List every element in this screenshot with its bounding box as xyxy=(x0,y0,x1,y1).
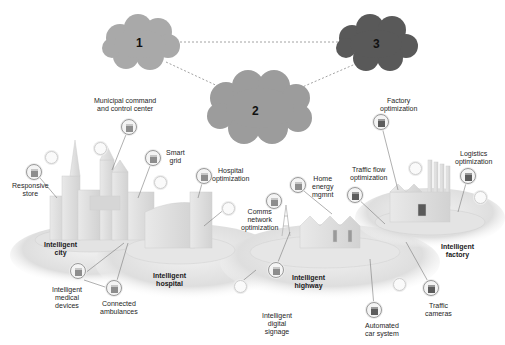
cloud-1-label: 1 xyxy=(136,36,143,50)
label-home-energy: Home energy mgmnt xyxy=(312,175,333,199)
cloud-3-label: 3 xyxy=(373,37,380,51)
home-energy-cube-icon xyxy=(290,177,306,193)
label-responsive-store: Responsive store xyxy=(12,182,49,198)
sensor-circle-icon xyxy=(222,202,235,215)
label-medical-devices: Intelligent medical devices xyxy=(52,286,82,310)
label-factory-optimization: Factory optimization xyxy=(380,97,417,113)
traffic-flow-cube-icon xyxy=(347,187,363,203)
sensor-circle-icon xyxy=(393,278,406,291)
automated-car-cube-icon xyxy=(366,302,382,318)
label-traffic-cameras: Traffic cameras xyxy=(425,302,452,318)
traffic-camera-cube-icon xyxy=(423,280,439,296)
ambulance-cube-icon xyxy=(106,280,122,296)
comms-cube-icon xyxy=(266,193,282,209)
label-municipal-command: Municipal command and control center xyxy=(94,97,156,113)
label-digital-signage: Intelligent digital signage xyxy=(262,312,292,336)
medical-devices-cube-icon xyxy=(70,263,86,279)
zone-intelligent-highway: Intelligent highway xyxy=(292,274,325,290)
logistics-cube-icon xyxy=(460,168,476,184)
smart-grid-cube-icon xyxy=(145,150,161,166)
zone-intelligent-city: Intelligent city xyxy=(44,241,77,257)
label-comms-network: Comms network optimization xyxy=(241,208,278,232)
city-buildings xyxy=(50,140,154,240)
sensor-circle-icon xyxy=(409,162,422,175)
zone-intelligent-factory: Intelligent factory xyxy=(441,243,474,259)
hospital-cube-icon xyxy=(196,168,212,184)
label-hospital-optimization: Hospital optimization xyxy=(212,167,249,183)
digital-signage-cube-icon xyxy=(268,262,284,278)
homes xyxy=(300,216,360,248)
sensor-circle-icon xyxy=(474,191,487,204)
sensor-circle-icon xyxy=(234,280,247,293)
zone-intelligent-hospital: Intelligent hospital xyxy=(153,272,186,288)
label-connected-ambulances: Connected ambulances xyxy=(100,300,138,316)
cloud-2-label: 2 xyxy=(252,104,259,118)
label-traffic-flow: Traffic flow optimization xyxy=(350,166,387,182)
label-automated-car: Automated car system xyxy=(365,322,399,338)
sensor-circle-icon xyxy=(45,151,58,164)
label-logistics-optimization: Logistics optimization xyxy=(455,150,492,166)
sensor-circle-icon xyxy=(94,142,107,155)
responsive-store-cube-icon xyxy=(26,164,42,180)
factory-cube-icon xyxy=(373,114,389,130)
cloud-2 xyxy=(207,70,312,144)
sensor-circle-icon xyxy=(154,176,167,189)
label-smart-grid: Smart grid xyxy=(166,149,185,165)
hospital-building xyxy=(145,192,212,248)
municipal-cube-icon xyxy=(121,119,137,135)
